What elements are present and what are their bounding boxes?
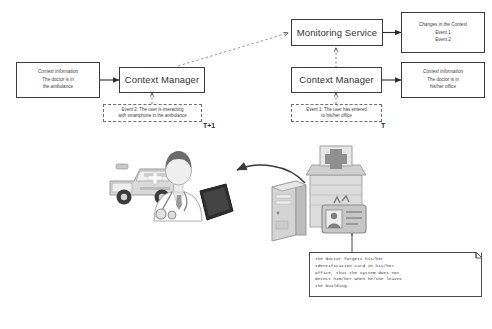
context-manager-right-label: Context Manager: [299, 74, 373, 86]
changes-in-context-event-1: Event 1: [435, 30, 451, 37]
monitoring-service-label: Monitoring Service: [297, 27, 377, 39]
node-changes-in-context[interactable]: Changes in the Context Event 1 Event 2: [401, 12, 485, 53]
context-info-left-header: Context Information: [38, 69, 78, 76]
context-info-left-line-2: the ambulance: [43, 84, 73, 91]
dashed-cm-left-to-monitoring: [178, 33, 288, 66]
node-context-information-left[interactable]: Context Information The doctor is in the…: [16, 62, 100, 98]
node-context-manager-right[interactable]: Context Manager: [291, 67, 382, 93]
node-context-manager-left[interactable]: Context Manager: [119, 67, 205, 93]
illustration-hospital-server-badge: [262, 143, 382, 248]
note-doctor-forgets-id-card: The doctor forgets his/her identificatio…: [309, 252, 482, 297]
context-info-right-header: Context Information: [423, 69, 463, 76]
node-event-one[interactable]: Event 1: The user has entered to his/her…: [291, 104, 382, 122]
changes-in-context-header: Changes in the Context: [419, 22, 467, 29]
event-two-line-2: with smartphone in the ambulance: [118, 113, 187, 119]
node-event-two[interactable]: Event 2: The user is interacting with sm…: [103, 104, 202, 122]
diagram-canvas: Changes in the Context --> Context Infor…: [0, 0, 492, 329]
context-info-right-line-1: The doctor is in: [427, 77, 458, 84]
server-tower-icon: [272, 181, 306, 241]
note-fold-corner: [476, 252, 482, 258]
event-one-line-2: to his/her office: [321, 113, 351, 119]
node-context-information-right[interactable]: Context Information The doctor is in his…: [401, 62, 485, 98]
changes-in-context-event-2: Event 2: [435, 37, 451, 44]
node-monitoring-service[interactable]: Monitoring Service: [291, 19, 383, 46]
context-info-left-line-1: The doctor is in: [42, 77, 73, 84]
time-label-t: T: [381, 122, 385, 129]
illustration-doctor-ambulance: [100, 143, 235, 238]
context-manager-left-label: Context Manager: [125, 74, 199, 86]
time-label-t-plus-1: T+1: [203, 122, 215, 129]
context-info-right-line-2: his/her office: [430, 84, 456, 91]
smartphone-icon: [200, 184, 233, 220]
